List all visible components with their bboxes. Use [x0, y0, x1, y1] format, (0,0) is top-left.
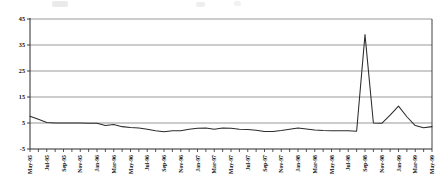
svg-text:May-96: May-96	[128, 155, 134, 174]
svg-text:Nov-95: Nov-95	[77, 155, 83, 173]
svg-text:Jul-98: Jul-98	[345, 155, 351, 171]
svg-text:Jan-98: Jan-98	[295, 155, 301, 172]
svg-text:45: 45	[19, 15, 25, 22]
svg-text:Jul-97: Jul-97	[245, 155, 251, 171]
svg-text:May-98: May-98	[329, 155, 335, 174]
svg-text:Jan-96: Jan-96	[94, 155, 100, 172]
svg-text:Mar-98: Mar-98	[312, 155, 318, 174]
svg-text:Mar-97: Mar-97	[211, 155, 217, 174]
svg-text:-5: -5	[20, 145, 25, 152]
svg-text:Mar-99: Mar-99	[412, 155, 418, 174]
svg-text:Sep-97: Sep-97	[262, 155, 268, 172]
svg-text:Jul-95: Jul-95	[44, 155, 50, 171]
svg-text:15: 15	[19, 93, 25, 100]
svg-text:Jan-99: Jan-99	[396, 155, 402, 172]
svg-text:5: 5	[22, 119, 25, 126]
data-series-line	[30, 35, 432, 132]
svg-text:Jan-97: Jan-97	[195, 155, 201, 172]
svg-text:35: 35	[19, 41, 25, 48]
svg-text:Nov-98: Nov-98	[379, 155, 385, 173]
y-axis-tick-labels: -5515253545	[19, 15, 25, 152]
svg-text:Sep-95: Sep-95	[61, 155, 67, 172]
svg-text:May-97: May-97	[228, 155, 234, 174]
svg-text:May-95: May-95	[27, 155, 33, 174]
svg-text:Sep-98: Sep-98	[362, 155, 368, 172]
line-chart: -5515253545 May-95Jul-95Sep-95Nov-95Jan-…	[0, 0, 444, 190]
svg-text:Nov-97: Nov-97	[278, 155, 284, 173]
svg-text:May-99: May-99	[429, 155, 435, 174]
svg-text:25: 25	[19, 67, 25, 74]
chart-container: -5515253545 May-95Jul-95Sep-95Nov-95Jan-…	[0, 0, 444, 190]
svg-text:Nov-96: Nov-96	[178, 155, 184, 173]
svg-text:Mar-96: Mar-96	[111, 155, 117, 174]
svg-text:Jul-96: Jul-96	[144, 155, 150, 171]
svg-text:Sep-96: Sep-96	[161, 155, 167, 172]
x-axis-tick-labels: May-95Jul-95Sep-95Nov-95Jan-96Mar-96May-…	[27, 155, 435, 174]
